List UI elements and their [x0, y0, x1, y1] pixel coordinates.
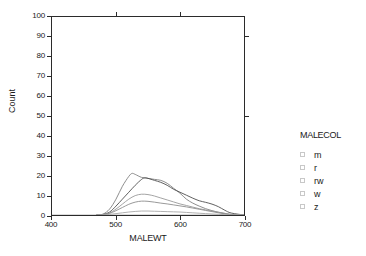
x-tick-label: 600	[165, 221, 195, 229]
y-tick-mark	[47, 176, 51, 177]
legend-swatch-icon	[300, 191, 305, 196]
y-tick-label: 20	[37, 172, 46, 180]
x-tick-label: 400	[36, 221, 66, 229]
right-frame-tick	[245, 116, 249, 117]
y-tick-mark	[47, 136, 51, 137]
right-frame-tick	[245, 36, 249, 37]
y-tick-label: 10	[37, 192, 46, 200]
legend: MALECOL mrrwwz	[300, 130, 362, 213]
legend-item-label: m	[314, 150, 322, 160]
chart-figure: 0102030405060708090100 400500600700 Coun…	[0, 0, 366, 256]
legend-item-w[interactable]: w	[300, 187, 362, 200]
legend-item-z[interactable]: z	[300, 200, 362, 213]
y-tick-mark	[47, 56, 51, 57]
y-tick-label: 40	[37, 132, 46, 140]
legend-item-label: z	[314, 202, 319, 212]
y-tick-mark	[47, 96, 51, 97]
y-tick-label: 80	[37, 52, 46, 60]
legend-item-label: r	[314, 163, 317, 173]
top-frame-tick	[180, 12, 181, 16]
y-axis-title: Count	[7, 71, 17, 131]
y-tick-mark	[47, 196, 51, 197]
legend-item-m[interactable]: m	[300, 148, 362, 161]
x-tick-label: 700	[230, 221, 260, 229]
legend-item-rw[interactable]: rw	[300, 174, 362, 187]
legend-swatch-icon	[300, 204, 305, 209]
y-tick-label: 30	[37, 152, 46, 160]
legend-swatch-icon	[300, 165, 305, 170]
y-tick-mark	[47, 156, 51, 157]
plot-area	[51, 16, 245, 216]
y-tick-label: 60	[37, 92, 46, 100]
x-tick-label: 500	[101, 221, 131, 229]
legend-title: MALECOL	[300, 130, 362, 140]
legend-item-list: mrrwwz	[300, 148, 362, 213]
y-tick-mark	[47, 16, 51, 17]
legend-item-label: w	[314, 189, 321, 199]
legend-item-r[interactable]: r	[300, 161, 362, 174]
y-tick-label: 0	[41, 212, 45, 220]
y-tick-mark	[47, 76, 51, 77]
legend-swatch-icon	[300, 152, 305, 157]
y-tick-label: 70	[37, 72, 46, 80]
y-tick-mark	[47, 116, 51, 117]
legend-item-label: rw	[314, 176, 324, 186]
y-tick-label: 100	[32, 12, 45, 20]
x-axis-title: MALEWT	[51, 233, 245, 243]
y-tick-label: 50	[37, 112, 46, 120]
y-tick-label: 90	[37, 32, 46, 40]
y-tick-mark	[47, 36, 51, 37]
legend-swatch-icon	[300, 178, 305, 183]
top-frame-tick	[116, 12, 117, 16]
curve-layer	[52, 17, 244, 215]
